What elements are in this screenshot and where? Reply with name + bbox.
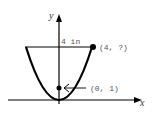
rim-point-label: (4, ?) [99,43,128,52]
x-axis-label: x [139,97,145,108]
rim-point [90,44,96,50]
width-label: 4 in [61,37,80,46]
y-axis-label: y [48,10,54,21]
parabola-diagram: x y 4 in (4, ?) (0, 1) [0,0,153,120]
focus-point-label: (0, 1) [90,84,119,93]
focus-point [57,86,62,91]
y-axis-arrow-icon [56,14,62,22]
